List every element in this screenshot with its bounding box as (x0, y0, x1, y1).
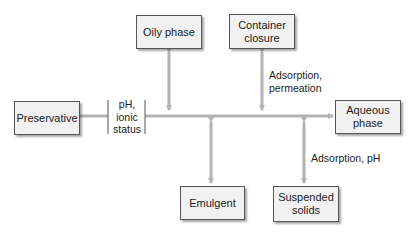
modifier-line: ionic (110, 111, 144, 124)
node-aqueous-phase: Aqueous phase (335, 100, 401, 134)
edge-label-line: Adsorption, (269, 69, 322, 82)
node-oily-phase: Oily phase (136, 15, 202, 49)
node-container-closure: Container closure (229, 14, 295, 49)
node-label: Oily phase (143, 26, 195, 39)
node-label: closure (244, 32, 279, 45)
node-label: Emulgent (189, 197, 235, 210)
modifier-line: status (110, 123, 144, 136)
edge-label-line: permeation (269, 82, 322, 95)
node-emulgent: Emulgent (180, 186, 245, 220)
edge-label-suspended: Adsorption, pH (311, 152, 380, 165)
node-label: Container (238, 19, 286, 32)
edge-label-container: Adsorption, permeation (269, 69, 322, 95)
modifier-line: pH, (110, 98, 144, 111)
node-label: Aqueous (346, 104, 389, 117)
modifier-label: pH, ionic status (110, 98, 144, 136)
node-label: Preservative (16, 112, 77, 125)
node-label: phase (353, 117, 383, 130)
edge-label-line: Adsorption, pH (311, 152, 380, 164)
node-label: Suspended (278, 191, 334, 204)
node-suspended-solids: Suspended solids (273, 186, 339, 222)
node-preservative: Preservative (14, 101, 80, 135)
node-label: solids (292, 204, 320, 217)
